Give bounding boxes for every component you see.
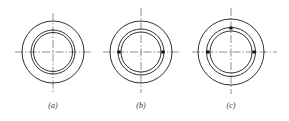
ring-diagram-figure: (a) (b) (c) — [0, 0, 289, 121]
contact-dot-right — [253, 51, 256, 54]
contact-dot-left — [207, 51, 210, 54]
panel-label-b: (b) — [136, 101, 146, 110]
panel-label-a: (a) — [48, 101, 58, 110]
panel-b: (b) — [103, 8, 181, 110]
contact-dot-left — [118, 51, 121, 54]
panel-a: (a) — [15, 13, 92, 110]
panel-c: (c) — [192, 8, 277, 110]
contact-dot-top — [230, 27, 233, 30]
panel-label-c: (c) — [227, 101, 236, 110]
contact-dot-right — [162, 51, 165, 54]
